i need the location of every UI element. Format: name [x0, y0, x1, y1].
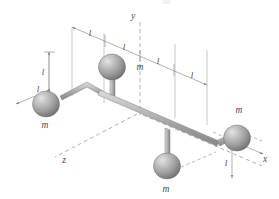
mass-bottom-label: m: [163, 184, 170, 194]
sphere-right: [224, 125, 251, 151]
x-axis-label: x: [262, 154, 268, 164]
rod-assembly: [60, 75, 236, 158]
mass-bottom: [154, 153, 181, 179]
sphere-top: [99, 54, 126, 80]
sphere-left: [33, 91, 60, 117]
dimension-label-top-2: l: [123, 42, 126, 52]
rod-main-axis: [98, 90, 219, 146]
y-axis-label: y: [130, 11, 136, 21]
dimension-label-top-1: l: [89, 28, 92, 38]
mass-right: [224, 125, 251, 151]
projection-guide-lines: [49, 27, 207, 125]
mass-left: [33, 91, 60, 117]
z-axis-line: [55, 114, 137, 157]
diagram-canvas: y z x l l l l l l l l: [0, 0, 279, 199]
mass-top-label: m: [137, 62, 144, 72]
rod-left-arm: [60, 82, 103, 100]
mass-right-label: m: [236, 105, 243, 115]
scan-artifact-top: [162, 0, 171, 4]
dimension-chain-top: [72, 27, 207, 85]
dimension-label-right-vertical: l: [225, 158, 228, 168]
dimension-label-left-vertical: l: [42, 67, 45, 77]
mass-top: [99, 54, 126, 80]
physics-diagram-figure: y z x l l l l l l l l: [0, 0, 279, 199]
mass-left-label: m: [42, 120, 49, 130]
dimension-left-vertical: [44, 52, 55, 92]
z-axis-label: z: [61, 155, 66, 165]
sphere-bottom: [154, 153, 181, 179]
dimension-label-top-4: l: [191, 70, 194, 80]
